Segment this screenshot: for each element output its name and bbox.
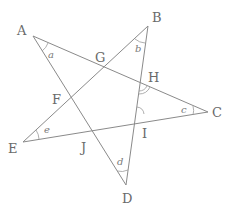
label-G: G [95,50,105,65]
angle-arc-d [117,170,128,172]
angle-arc-e [36,130,39,139]
label-J: J [79,140,86,155]
angle-label-b: b [135,43,141,54]
label-B: B [152,10,162,25]
label-D: D [122,191,132,206]
angle-label-c: c [181,104,187,115]
label-A: A [16,23,27,38]
label-E: E [8,141,18,156]
label-C: C [212,105,222,120]
angle-label-a: a [48,49,54,60]
angle-arc-c [193,106,194,115]
angle-arc-I [137,107,144,114]
label-H: H [148,70,159,85]
label-F: F [52,92,61,107]
angle-arc-H-1 [139,86,147,91]
pentagram-diagram: A B C D E F G H I J a b c d e [0,0,235,214]
angle-label-d: d [117,156,123,167]
angle-label-e: e [44,124,50,135]
line-AD [33,36,126,185]
label-I: I [142,126,147,141]
